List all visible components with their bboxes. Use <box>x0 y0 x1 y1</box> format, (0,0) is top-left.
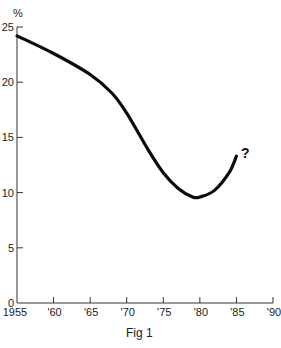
x-tick-label: '70 <box>121 306 135 318</box>
x-tick-label: '80 <box>194 306 208 318</box>
x-tick-label: '60 <box>47 306 61 318</box>
y-tick-label: 5 <box>8 242 14 254</box>
chart: 0510152025 1955'60'65'70'75'80'85'90 % ?… <box>0 0 281 348</box>
y-tick-label: 15 <box>2 131 14 143</box>
x-tick-label: '65 <box>84 306 98 318</box>
question-mark-annotation: ? <box>241 145 250 161</box>
x-tick-label: '75 <box>157 306 171 318</box>
y-tick-label: 25 <box>2 21 14 33</box>
x-axis-labels: 1955'60'65'70'75'80'85'90 <box>3 306 281 318</box>
data-line <box>17 36 236 198</box>
x-tick-label: '85 <box>230 306 244 318</box>
figure-caption: Fig 1 <box>126 326 153 340</box>
y-tick-label: 10 <box>2 187 14 199</box>
x-tick-label: '90 <box>267 306 281 318</box>
y-tick-label: 20 <box>2 76 14 88</box>
x-tick-label: 1955 <box>3 306 27 318</box>
y-axis-unit-label: % <box>13 7 23 19</box>
y-axis-labels: 0510152025 <box>2 21 14 309</box>
